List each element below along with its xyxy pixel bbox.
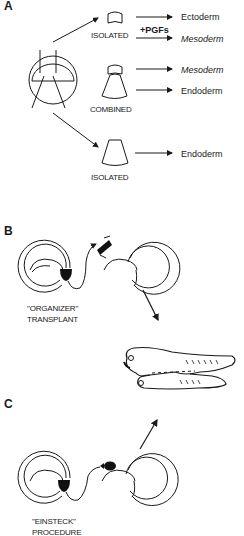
eye-icon <box>139 381 144 386</box>
output-ectoderm: Ectoderm <box>181 12 220 22</box>
inserted-organizer-icon <box>104 462 116 471</box>
output-mesoderm-2: Mesoderm <box>181 65 224 75</box>
vegetal-explant-icon <box>102 140 128 166</box>
arrow-c-to-result <box>140 420 157 449</box>
eye-icon <box>129 356 134 361</box>
output-endoderm-2: Endoderm <box>181 149 223 159</box>
panel-c-label: C <box>4 397 13 411</box>
transfer-path <box>66 467 100 500</box>
isolated-bottom-caption: ISOLATED <box>91 173 129 182</box>
donor-gastrula-icon <box>18 240 70 292</box>
organizer-tissue-icon <box>58 480 70 492</box>
pgfs-treatment-label: +PGFs <box>140 25 169 35</box>
diagram-canvas: A ISOLATED Ectoderm +PGFs Mesoderm COMBI… <box>0 0 244 536</box>
panel-c-caption-line2: PROCEDURE <box>32 528 81 536</box>
blastula-icon <box>29 50 77 108</box>
panel-c-caption-line1: "EINSTECK" <box>32 517 76 526</box>
panel-b-caption-line1: "ORGANIZER" <box>27 304 78 313</box>
host-gastrula-icon <box>104 242 180 294</box>
host-gastrula-icon <box>102 454 178 506</box>
grafted-organizer-icon <box>97 240 112 255</box>
graft-mark <box>104 236 110 238</box>
insert-tip-icon <box>100 463 104 469</box>
isolated-top-caption: ISOLATED <box>91 31 129 40</box>
donor-gastrula-icon <box>18 451 70 503</box>
organizer-tissue-icon <box>60 269 72 281</box>
output-mesoderm-1: Mesoderm <box>181 34 224 44</box>
panel-b-caption-line2: TRANSPLANT <box>27 315 78 324</box>
transfer-path <box>68 244 96 289</box>
combined-explant-icon <box>102 65 127 99</box>
output-endoderm-1: Endoderm <box>181 86 223 96</box>
combined-caption: COMBINED <box>90 105 132 114</box>
graft-mark <box>100 255 106 258</box>
arrow-to-isolated-bottom <box>53 113 98 147</box>
panel-a-label: A <box>4 0 13 13</box>
animal-cap-icon <box>108 12 122 23</box>
twinned-embryo-icon <box>126 348 235 390</box>
panel-b-label: B <box>4 224 13 238</box>
